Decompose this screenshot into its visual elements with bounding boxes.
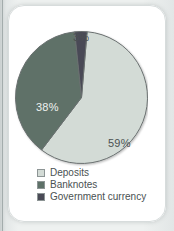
page-background: 3% 38% 59% Deposits Banknotes Government… — [0, 0, 174, 231]
legend-item-government-currency: Government currency — [37, 192, 163, 202]
pie-chart-graphic: 3% 38% 59% — [14, 27, 148, 169]
pie-data-label-government-currency: 3% — [73, 31, 89, 43]
legend-label-banknotes: Banknotes — [50, 180, 97, 190]
legend-swatch-government-currency — [37, 193, 45, 201]
pie-data-label-deposits: 59% — [108, 137, 131, 149]
legend-swatch-banknotes — [37, 181, 45, 189]
legend-swatch-deposits — [37, 169, 45, 177]
chart-legend: Deposits Banknotes Government currency — [37, 168, 163, 204]
legend-item-deposits: Deposits — [37, 168, 163, 178]
legend-item-banknotes: Banknotes — [37, 180, 163, 190]
page-gutter-line — [2, 0, 3, 231]
pie-data-label-banknotes: 38% — [36, 101, 59, 113]
legend-label-deposits: Deposits — [50, 168, 89, 178]
pie-chart-figure: 3% 38% 59% Deposits Banknotes Government… — [8, 5, 166, 222]
legend-label-government-currency: Government currency — [50, 192, 146, 202]
